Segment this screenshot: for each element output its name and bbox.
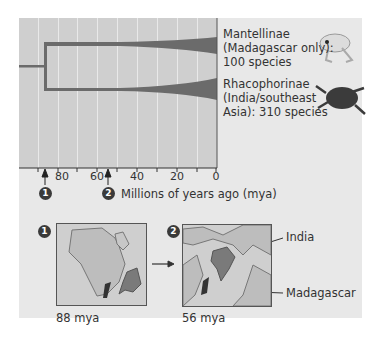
- map-56mya: [182, 224, 272, 307]
- tick-label: 20: [170, 170, 184, 183]
- tick-label: 80: [55, 170, 69, 183]
- transition-arrow: [152, 261, 174, 267]
- tick-label: 60: [90, 170, 104, 183]
- map-badge-2: 2: [167, 225, 180, 238]
- map-caption-1: 88 mya: [56, 311, 99, 325]
- clade-label-rhacophorinae: Rhacophorinae (India/southeast Asia): 31…: [223, 77, 328, 119]
- tick-label: 0: [213, 170, 220, 183]
- map-caption-2: 56 mya: [182, 311, 225, 325]
- clade-label-mantellinae: Mantellinae (Madagascar only): 100 speci…: [223, 27, 334, 69]
- marker-badge-1: 1: [39, 187, 52, 200]
- map-88mya: [56, 223, 147, 306]
- tick-label: 40: [130, 170, 144, 183]
- phylogenetic-tree: [19, 37, 217, 100]
- axis-title: Millions of years ago (mya): [121, 187, 277, 201]
- time-axis: [19, 168, 217, 172]
- madagascar-label: Madagascar: [286, 286, 356, 300]
- map-badge-1: 1: [38, 225, 51, 238]
- marker-badge-2: 2: [102, 187, 115, 200]
- india-label: India: [286, 230, 314, 244]
